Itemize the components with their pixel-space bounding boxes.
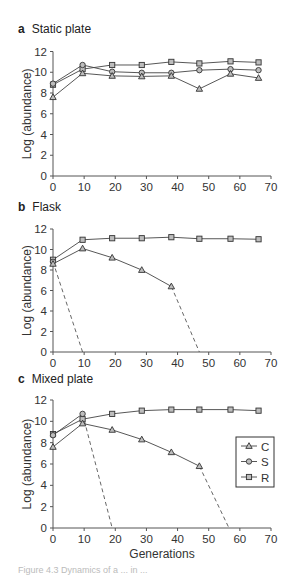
x-tick-label: 40 [171, 357, 184, 369]
y-tick-label: 0 [41, 522, 47, 534]
y-tick-label: 6 [41, 285, 47, 297]
extinction-line-C [199, 466, 229, 528]
square-marker [228, 407, 233, 412]
triangle-marker [168, 283, 174, 289]
x-axis-title: Generations [129, 547, 194, 561]
circle-marker [80, 62, 85, 67]
legend-label-S: S [261, 456, 269, 468]
square-marker [169, 407, 174, 412]
figure-caption: Figure 4.3 Dynamics of a ... in ... [18, 565, 148, 575]
x-tick-label: 30 [140, 181, 153, 193]
y-tick-label: 12 [34, 394, 47, 406]
y-tick-label: 6 [41, 108, 47, 120]
triangle-marker [50, 444, 56, 450]
square-marker [110, 62, 115, 67]
figure-canvas: 024681012010203040506070Log (abundance)0… [0, 0, 297, 575]
square-marker [110, 236, 115, 241]
x-tick-label: 30 [140, 357, 153, 369]
series-line-C [53, 73, 259, 97]
square-marker [256, 237, 261, 242]
square-marker [228, 236, 233, 241]
circle-marker [50, 81, 55, 86]
y-tick-label: 12 [34, 223, 47, 235]
square-marker [110, 411, 115, 416]
x-tick-label: 60 [233, 181, 246, 193]
square-marker [197, 407, 202, 412]
x-tick-label: 60 [233, 533, 246, 545]
square-marker [169, 235, 174, 240]
legend: CSR [236, 437, 274, 487]
square-marker [197, 61, 202, 66]
x-tick-label: 50 [202, 533, 215, 545]
series-line-C [53, 423, 199, 466]
x-tick-label: 20 [109, 533, 122, 545]
y-tick-label: 8 [41, 87, 47, 99]
circle-marker [246, 459, 251, 464]
x-tick-label: 50 [202, 181, 215, 193]
square-marker [139, 408, 144, 413]
x-tick-label: 70 [265, 357, 278, 369]
x-tick-label: 60 [233, 357, 246, 369]
circle-marker [80, 411, 85, 416]
y-tick-label: 4 [41, 129, 48, 141]
triangle-marker [196, 463, 202, 469]
y-tick-label: 2 [41, 326, 47, 338]
triangle-marker [50, 94, 56, 100]
x-tick-label: 30 [140, 533, 153, 545]
y-tick-label: 10 [34, 415, 47, 427]
x-tick-label: 40 [171, 533, 184, 545]
chart-panel-a: 024681012010203040506070Log (abundance) [20, 46, 277, 194]
x-tick-label: 70 [265, 533, 278, 545]
y-axis-title: Log (abundance) [20, 419, 34, 510]
square-marker [139, 62, 144, 67]
extinction-line-S [53, 262, 83, 352]
square-marker [139, 236, 144, 241]
circle-marker [50, 433, 55, 438]
square-marker [197, 236, 202, 241]
y-tick-label: 2 [41, 501, 47, 513]
triangle-marker [227, 71, 233, 77]
y-tick-label: 8 [41, 437, 47, 449]
y-tick-label: 10 [34, 66, 47, 78]
square-marker [246, 474, 251, 479]
square-marker [169, 59, 174, 64]
y-tick-label: 0 [41, 346, 47, 358]
triangle-marker [168, 449, 174, 455]
x-tick-label: 10 [78, 533, 91, 545]
legend-label-R: R [261, 472, 269, 484]
x-tick-label: 20 [109, 357, 122, 369]
x-tick-label: 10 [78, 181, 91, 193]
extinction-line-C [171, 286, 199, 352]
y-axis-title: Log (abundance) [20, 245, 34, 336]
extinction-line-S [83, 414, 113, 528]
x-tick-label: 10 [78, 357, 91, 369]
y-tick-label: 8 [41, 264, 47, 276]
square-marker [228, 59, 233, 64]
y-tick-label: 6 [41, 458, 47, 470]
circle-marker [197, 67, 202, 72]
square-marker [256, 408, 261, 413]
x-tick-label: 50 [202, 357, 215, 369]
legend-label-C: C [261, 441, 269, 453]
square-marker [256, 60, 261, 65]
y-tick-label: 2 [41, 149, 47, 161]
x-tick-label: 0 [50, 533, 56, 545]
y-tick-label: 10 [34, 244, 47, 256]
triangle-marker [196, 86, 202, 92]
x-tick-label: 20 [109, 181, 122, 193]
circle-marker [256, 67, 261, 72]
y-axis-title: Log (abundance) [20, 68, 34, 159]
triangle-marker [79, 245, 85, 251]
x-tick-label: 0 [50, 181, 56, 193]
x-tick-label: 0 [50, 357, 56, 369]
y-tick-label: 4 [41, 305, 48, 317]
chart-panel-b: 024681012010203040506070Log (abundance) [20, 223, 277, 369]
y-tick-label: 4 [41, 479, 48, 491]
square-marker [80, 237, 85, 242]
x-tick-label: 70 [265, 181, 278, 193]
y-tick-label: 0 [41, 170, 47, 182]
y-tick-label: 12 [34, 46, 47, 58]
x-tick-label: 40 [171, 181, 184, 193]
